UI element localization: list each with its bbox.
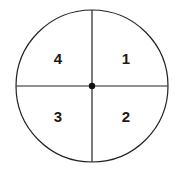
quadrant-label-4: 4 [54, 50, 63, 67]
quadrant-label-1: 1 [122, 50, 130, 67]
quadrant-diagram: 1 2 3 4 [0, 0, 175, 172]
center-point [89, 83, 95, 89]
quadrant-label-3: 3 [54, 108, 62, 125]
quadrant-label-2: 2 [122, 108, 130, 125]
